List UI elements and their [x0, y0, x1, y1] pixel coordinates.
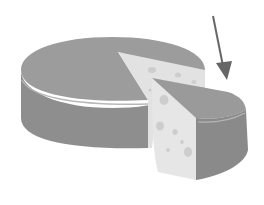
cheese-illustration [0, 0, 264, 205]
arrow-down-icon [216, 61, 232, 80]
arrow-shaft [213, 16, 223, 66]
illustration [0, 0, 264, 205]
